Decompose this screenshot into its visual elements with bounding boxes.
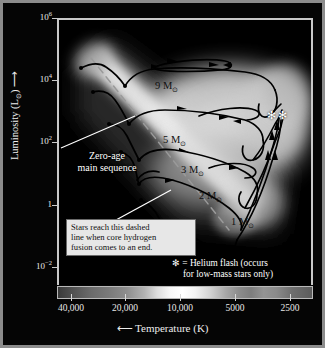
zams-annotation: Zero-age main sequence [58, 150, 156, 173]
y-tick-label-1e-2: 10−2 [22, 262, 52, 271]
y-tick-mark-1e4 [52, 80, 57, 81]
y-axis-title: Luminosity (L⊙) ⟶ [8, 56, 20, 176]
y-axis-arrow: ⟶ [9, 72, 20, 87]
y-tick-mark-1 [52, 205, 57, 206]
x-tick-mark-10000 [180, 294, 181, 301]
solar-symbol-axis: ⊙ [15, 93, 23, 99]
mass-label-1: 1 M⊙ [231, 216, 254, 227]
solar-symbol-2: ⊙ [216, 196, 222, 204]
temperature-color-bar [57, 286, 313, 299]
solar-symbol-5: ⊙ [180, 140, 186, 148]
dashed-line-callout: Stars reach this dashed line when core h… [66, 219, 196, 256]
mass-label-9: 9 M⊙ [155, 80, 178, 91]
y-tick-label-1e2: 102 [26, 137, 52, 146]
x-tick-label-10000: 10,000 [150, 303, 210, 313]
callout-line-1: Stars reach this dashed [71, 222, 192, 232]
helium-legend-line-1: ✻ = Helium flash (occurs [172, 258, 273, 269]
y-tick-mark-1e2 [52, 142, 57, 143]
x-tick-label-5000: 5000 [205, 303, 265, 313]
y-tick-mark-1e-2 [52, 267, 57, 268]
helium-legend-line-2: for low-mass stars only) [172, 269, 273, 280]
x-tick-mark-20000 [125, 294, 126, 301]
x-tick-mark-2500 [290, 294, 291, 301]
mass-label-2: 2 M⊙ [199, 190, 222, 201]
mass-label-5: 5 M⊙ [163, 134, 186, 145]
helium-flash-marker-1: ✻ [267, 110, 276, 121]
y-tick-label-1e6: 106 [26, 13, 52, 22]
y-tick-label-1e4: 104 [26, 75, 52, 84]
y-tick-label-1: 1 [26, 200, 52, 209]
callout-line-2: line when core hydrogen [71, 232, 192, 242]
x-axis-title: ⟵ Temperature (K) [0, 322, 325, 335]
solar-symbol-9: ⊙ [172, 86, 178, 94]
hr-diagram-figure: 9 M⊙ 5 M⊙ 3 M⊙ 2 M⊙ 1 M⊙ ✻ ✻ 106 104 102 [0, 0, 325, 348]
x-tick-label-2500: 2500 [260, 303, 320, 313]
x-tick-label-40000: 40,000 [41, 303, 101, 313]
x-tick-label-20000: 20,000 [95, 303, 155, 313]
solar-symbol-3: ⊙ [198, 170, 204, 178]
mass-label-3: 3 M⊙ [181, 164, 204, 175]
zams-line-2: main sequence [58, 162, 156, 174]
x-tick-mark-5000 [235, 294, 236, 301]
helium-flash-marker-2: ✻ [278, 110, 287, 121]
solar-symbol-1: ⊙ [248, 222, 254, 230]
zams-line-1: Zero-age [58, 150, 156, 162]
helium-flash-legend: ✻ = Helium flash (occurs for low-mass st… [172, 258, 273, 279]
y-tick-mark-1e6 [52, 18, 57, 19]
x-tick-mark-40000 [71, 294, 72, 301]
callout-line-3: fusion comes to an end. [71, 242, 192, 252]
